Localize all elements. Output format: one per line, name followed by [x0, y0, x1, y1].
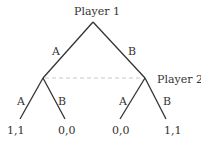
right-branch-B-label: B — [163, 96, 171, 107]
edge-root-A — [43, 22, 93, 78]
payoff-2: 0,0 — [58, 125, 76, 136]
root-branch-B-label: B — [128, 46, 136, 57]
payoff-4: 1,1 — [164, 125, 182, 136]
left-branch-B-label: B — [58, 96, 66, 107]
root-branch-A-label: A — [52, 46, 60, 57]
left-branch-A-label: A — [17, 96, 25, 107]
payoff-3: 0,0 — [112, 125, 130, 136]
right-branch-A-label: A — [119, 96, 127, 107]
payoff-1: 1,1 — [7, 125, 25, 136]
game-tree-edges — [0, 0, 201, 143]
second-player-label: Player 2 — [157, 74, 201, 85]
root-player-label: Player 1 — [74, 6, 120, 17]
edge-root-B — [93, 22, 145, 78]
